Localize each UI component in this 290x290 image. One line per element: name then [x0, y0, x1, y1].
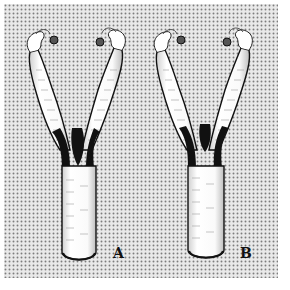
stipple-background	[4, 4, 278, 278]
panel-label-a: A	[113, 246, 124, 260]
panel-label-b: B	[240, 246, 252, 260]
